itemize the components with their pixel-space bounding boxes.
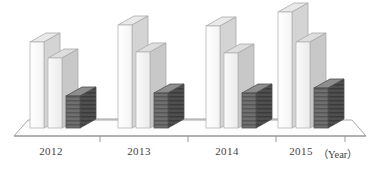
bar-group-2015 — [278, 3, 344, 128]
bar-2015-series-3 — [314, 79, 344, 128]
bar-2014-series-3 — [242, 84, 272, 128]
bar-chart: 2012 2013 2014 2015 （Year） — [0, 0, 369, 171]
axis-ticks — [100, 136, 345, 142]
x-axis-label-2013: 2013 — [114, 145, 164, 157]
bar-2012-series-3 — [66, 87, 96, 128]
bar-group-2012 — [30, 33, 118, 128]
bar-2013-series-3 — [154, 84, 184, 128]
x-axis-label-2012: 2012 — [26, 145, 76, 157]
bar-group-2013 — [118, 16, 206, 128]
x-axis-unit-label: （Year） — [318, 146, 357, 161]
x-axis-label-2014: 2014 — [202, 145, 252, 157]
